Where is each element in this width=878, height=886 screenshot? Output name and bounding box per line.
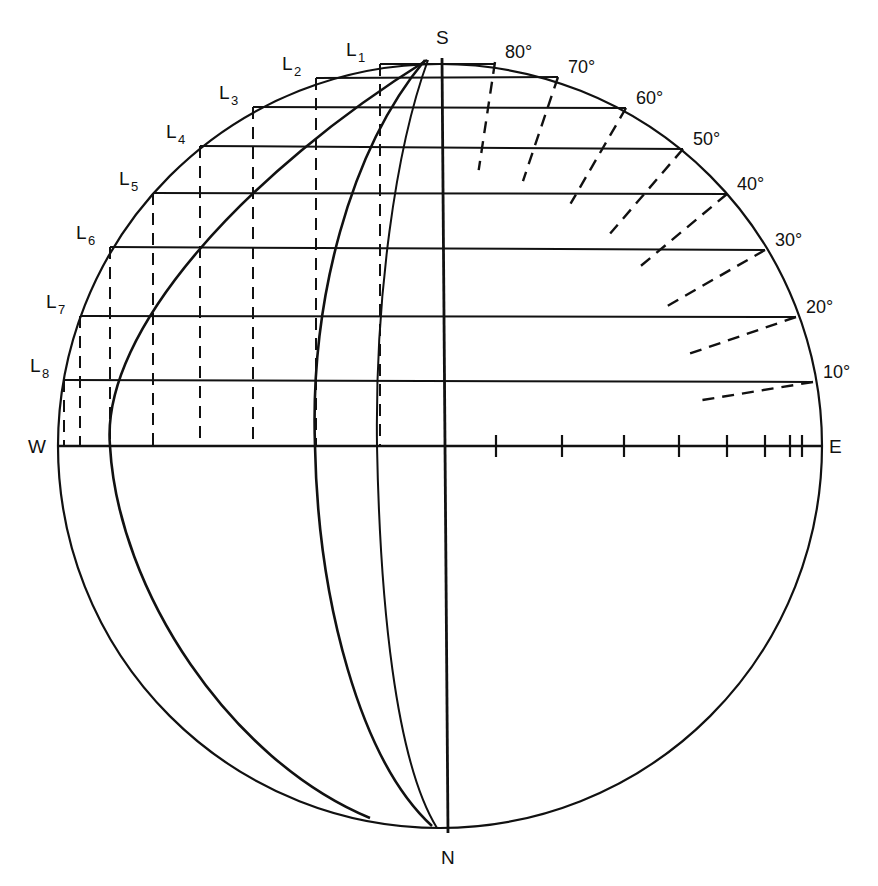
angle-label: 70° [568, 57, 595, 77]
l-point-labels: L1L2L3L4L5L6L7L8 [30, 39, 365, 381]
l-point-subscript: 3 [231, 93, 238, 108]
angle-label: 50° [693, 129, 720, 149]
great-circle-arc-inner [377, 60, 437, 828]
pole-label-e: E [829, 436, 842, 457]
dashed-radial [641, 194, 727, 266]
l-point-label: L [166, 121, 177, 142]
angle-label: 80° [505, 42, 532, 62]
l-point-label: L [46, 291, 57, 312]
angle-label: 60° [636, 88, 663, 108]
l-point-label: L [76, 222, 87, 243]
stereographic-projection-diagram: S N W E L1L2L3L4L5L6L7L8 80°70°60°50°40°… [0, 0, 878, 886]
angle-label: 30° [775, 230, 802, 250]
angle-label: 40° [737, 174, 764, 194]
dashed-radial [700, 382, 813, 400]
angle-label: 20° [806, 297, 833, 317]
dashed-radial [688, 317, 796, 354]
angle-label: 10° [823, 362, 850, 382]
great-circle-arc-middle [315, 60, 432, 826]
l-point-label: L [30, 355, 41, 376]
horizontal-chord [153, 193, 727, 194]
dashed-radial [610, 149, 683, 234]
dashed-radial [667, 250, 765, 306]
pole-label-n: N [441, 847, 455, 868]
l-point-label: L [282, 53, 293, 74]
dashed-radial [571, 108, 626, 204]
horizontal-chord [253, 107, 626, 108]
horizontal-chord [80, 316, 796, 317]
horizontal-chord [64, 380, 813, 382]
l-point-subscript: 2 [294, 64, 301, 79]
l-point-subscript: 7 [58, 302, 65, 317]
dashed-angle-lines [479, 62, 813, 400]
l-point-subscript: 1 [358, 50, 365, 65]
l-point-subscript: 8 [42, 366, 49, 381]
horizontal-chord [316, 77, 558, 78]
dashed-radial [523, 77, 558, 181]
l-point-subscript: 5 [131, 179, 138, 194]
angle-labels: 80°70°60°50°40°30°20°10° [505, 42, 850, 382]
l-point-label: L [219, 82, 230, 103]
pole-label-s: S [436, 27, 449, 48]
l-point-subscript: 4 [178, 132, 185, 147]
dashed-projection-lines [64, 64, 380, 446]
l-point-label: L [119, 168, 130, 189]
l-point-label: L [346, 39, 357, 60]
l-point-subscript: 6 [88, 233, 95, 248]
pole-label-w: W [28, 436, 46, 457]
horizontal-chord [110, 247, 765, 250]
